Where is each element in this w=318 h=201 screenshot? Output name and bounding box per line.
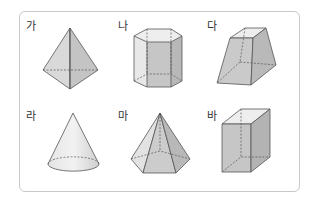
rectangular-prism-icon [0, 0, 318, 201]
